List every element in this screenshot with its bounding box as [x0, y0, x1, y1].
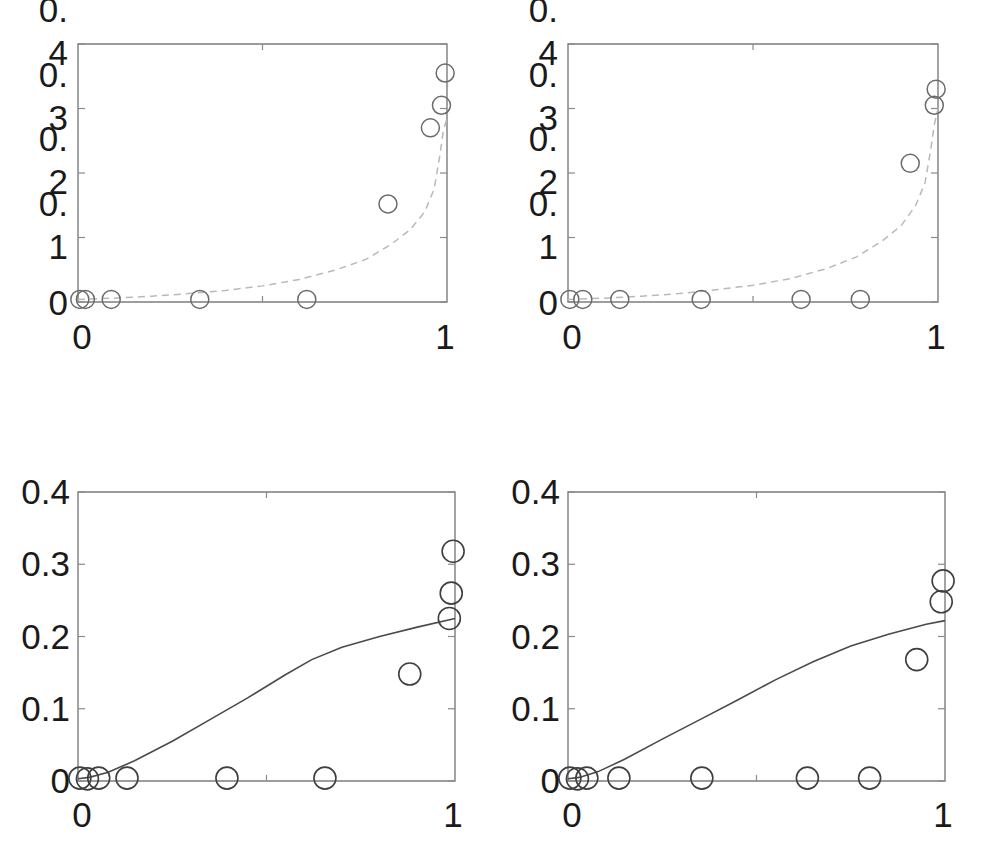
x-tick-label: 1 [435, 317, 454, 356]
fitted-curve [568, 109, 938, 300]
data-point-marker [792, 290, 810, 308]
data-point-marker [442, 540, 464, 562]
chart-panel-bottom-right: 00.10.20.30.401 [490, 448, 989, 855]
x-tick-label: 0 [72, 795, 91, 834]
data-point-marker [436, 64, 454, 82]
x-tick-label: 0 [562, 317, 581, 356]
y-tick-label: 0.4 [21, 472, 70, 511]
data-point-marker [421, 119, 439, 137]
chart-panel-bottom-left: 00.10.20.30.401 [0, 448, 505, 855]
data-point-marker [692, 290, 710, 308]
chart-panel-top-right: 00.10.20.30.401 [490, 0, 988, 376]
y-tick-label-line: 2 [539, 162, 558, 201]
data-point-marker [925, 96, 943, 114]
y-tick-label: 0.2 [511, 617, 560, 656]
data-point-marker [851, 290, 869, 308]
fitted-curve [78, 618, 455, 778]
fitted-curve [78, 118, 447, 299]
y-tick-label-line: 3 [539, 98, 558, 137]
y-tick-label: 0.1 [21, 689, 70, 728]
figure-canvas: 00.10.20.30.40100.10.20.30.40100.10.20.3… [0, 0, 989, 855]
data-point-marker [102, 290, 120, 308]
y-tick-label-line: 2 [49, 162, 68, 201]
y-tick-label-line: 1 [49, 227, 68, 266]
data-point-marker [379, 195, 397, 213]
y-tick-label: 0 [51, 761, 70, 800]
y-tick-label-line: 4 [49, 33, 68, 72]
y-tick-label: 0 [539, 283, 558, 322]
y-tick-label-line: 4 [539, 33, 558, 72]
y-tick-label: 0.3 [511, 544, 560, 583]
data-point-marker [927, 80, 945, 98]
data-point-marker [608, 767, 630, 789]
plot-frame [568, 44, 938, 302]
plot-frame [568, 492, 945, 781]
data-point-marker [906, 649, 928, 671]
data-point-marker [314, 767, 336, 789]
data-point-marker [438, 607, 460, 629]
y-tick-label: 0.1 [511, 689, 560, 728]
y-tick-label-line: 3 [49, 98, 68, 137]
data-point-marker [440, 582, 462, 604]
data-point-marker [611, 290, 629, 308]
x-tick-label: 1 [933, 795, 952, 834]
data-point-marker [116, 767, 138, 789]
x-tick-label: 1 [443, 795, 462, 834]
data-point-marker [796, 767, 818, 789]
data-point-marker [298, 290, 316, 308]
x-tick-label: 0 [562, 795, 581, 834]
data-point-marker [901, 154, 919, 172]
data-point-marker [399, 663, 421, 685]
y-tick-label-line: 0. [529, 0, 558, 29]
x-tick-label: 1 [926, 317, 945, 356]
y-tick-label-line: 1 [539, 227, 558, 266]
y-tick-label-line: 0. [39, 0, 68, 29]
data-point-marker [691, 767, 713, 789]
y-tick-label: 0.2 [21, 617, 70, 656]
y-tick-label: 0.4 [511, 472, 560, 511]
y-tick-label: 0.3 [21, 544, 70, 583]
chart-panel-top-left: 00.10.20.30.401 [0, 0, 497, 376]
data-point-marker [859, 767, 881, 789]
plot-frame [78, 492, 455, 781]
plot-frame [78, 44, 447, 302]
y-tick-label: 0 [541, 761, 560, 800]
fitted-curve [568, 621, 945, 779]
data-point-marker [432, 96, 450, 114]
data-point-marker [216, 767, 238, 789]
data-point-marker [930, 591, 952, 613]
data-point-marker [932, 570, 954, 592]
y-tick-label: 0 [49, 283, 68, 322]
x-tick-label: 0 [72, 317, 91, 356]
